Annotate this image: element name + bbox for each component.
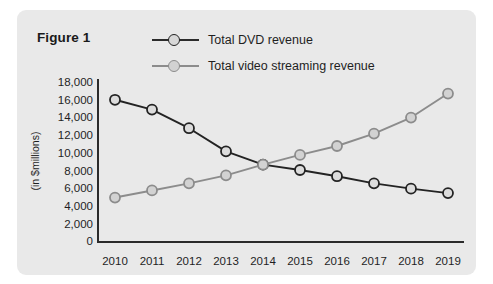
data-point-marker [295, 165, 305, 175]
x-tick: 2017 [361, 255, 387, 267]
data-point-marker [332, 141, 342, 151]
series-dvd [110, 95, 453, 198]
data-point-marker [295, 150, 305, 160]
data-point-marker [147, 185, 157, 195]
x-tick: 2013 [213, 255, 239, 267]
data-point-marker [332, 171, 342, 181]
data-point-marker [443, 89, 453, 99]
series-line [115, 94, 448, 198]
x-tick: 2010 [102, 255, 128, 267]
data-point-marker [110, 95, 120, 105]
data-point-marker [184, 178, 194, 188]
data-point-marker [406, 113, 416, 123]
chart-lines [17, 10, 476, 275]
plot-area: (in $millions) 18,000 16,000 14,000 12,0… [17, 10, 476, 275]
x-tick: 2011 [140, 255, 165, 267]
series-streaming [110, 89, 453, 203]
data-point-marker [221, 146, 231, 156]
series-line [115, 100, 448, 193]
data-point-marker [147, 105, 157, 115]
data-point-marker [443, 188, 453, 198]
data-point-marker [221, 170, 231, 180]
data-point-marker [258, 160, 268, 170]
data-point-marker [369, 129, 379, 139]
x-tick: 2014 [250, 255, 276, 267]
data-point-marker [369, 178, 379, 188]
figure-panel: Figure 1 Total DVD revenue Total video s… [17, 10, 476, 275]
x-tick: 2016 [324, 255, 350, 267]
x-tick: 2019 [435, 255, 461, 267]
x-tick: 2012 [176, 255, 202, 267]
x-tick: 2015 [287, 255, 313, 267]
data-point-marker [184, 123, 194, 133]
x-axis-ticks: 2010 2011 2012 2013 2014 2015 2016 2017 … [17, 255, 476, 275]
x-tick: 2018 [398, 255, 424, 267]
data-point-marker [406, 184, 416, 194]
data-point-marker [110, 193, 120, 203]
